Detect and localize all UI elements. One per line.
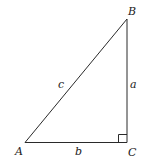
- right-angle-marker: [119, 135, 128, 143]
- vertex-label-c-upper: C: [128, 146, 137, 159]
- vertex-label-b-upper: B: [127, 5, 136, 18]
- side-label-a: a: [130, 78, 137, 91]
- side-c-hypotenuse: [25, 19, 127, 143]
- vertex-label-a-upper: A: [14, 145, 23, 158]
- right-triangle-diagram: A B C c a b: [0, 0, 147, 164]
- side-label-c: c: [58, 78, 64, 91]
- side-label-b: b: [75, 145, 82, 158]
